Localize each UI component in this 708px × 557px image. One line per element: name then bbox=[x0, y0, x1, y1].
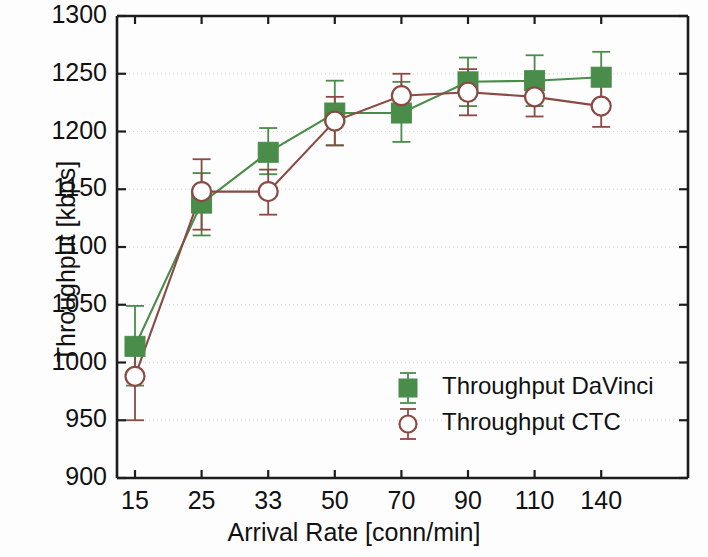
data-point-marker bbox=[192, 182, 211, 201]
data-point-marker bbox=[591, 67, 611, 87]
legend-label: Throughput DaVinci bbox=[442, 372, 654, 400]
data-point-marker bbox=[592, 97, 611, 116]
x-tick-label: 140 bbox=[556, 486, 646, 515]
legend-markers bbox=[399, 373, 417, 439]
legend-marker bbox=[400, 416, 417, 433]
chart-figure: 9009501000105011001150120012501300 15253… bbox=[0, 0, 708, 557]
data-point-marker bbox=[325, 112, 344, 131]
data-point-marker bbox=[525, 87, 544, 106]
data-point-marker bbox=[459, 83, 478, 102]
grid-lines bbox=[117, 74, 688, 421]
series-line bbox=[135, 92, 601, 376]
data-series bbox=[125, 52, 611, 420]
legend-label: Throughput CTC bbox=[442, 408, 621, 436]
y-axis-title: Throughput [kbps] bbox=[52, 161, 80, 363]
data-point-marker bbox=[259, 182, 278, 201]
data-point-marker bbox=[125, 336, 145, 356]
data-point-marker bbox=[126, 367, 145, 386]
y-axis-title-wrap: Throughput [kbps] bbox=[52, 112, 81, 412]
x-axis-title-wrap: Arrival Rate [conn/min] bbox=[0, 518, 708, 547]
data-point-marker bbox=[392, 86, 411, 105]
data-point-marker bbox=[258, 142, 278, 162]
y-tick-label: 1300 bbox=[0, 0, 107, 29]
x-axis-title: Arrival Rate [conn/min] bbox=[228, 518, 481, 546]
legend-marker bbox=[399, 379, 417, 397]
y-tick-label: 1250 bbox=[0, 58, 107, 87]
